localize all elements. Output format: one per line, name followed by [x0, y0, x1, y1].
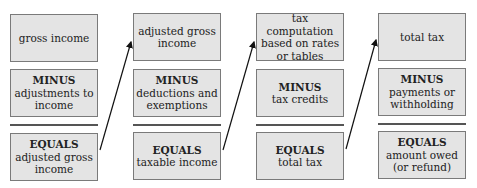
arrow-col2-to-col3 — [223, 42, 254, 150]
arrow-col1-to-col2 — [100, 42, 131, 150]
flow-arrows — [0, 0, 477, 188]
arrow-col3-to-col4 — [346, 40, 376, 149]
